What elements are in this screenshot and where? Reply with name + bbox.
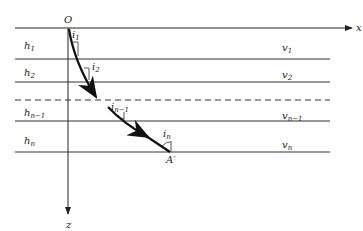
layer-thickness-n: hn (24, 135, 35, 148)
layer-thickness-2: h2 (24, 67, 35, 80)
x-axis-label: x (356, 22, 362, 33)
angle-in: in (163, 128, 171, 141)
layer-thickness-n-1: hn−1 (24, 107, 45, 120)
ray-path-diagram: x z O h1 h2 hn−1 hn v1 v2 vn−1 vn i1 i2 … (0, 0, 363, 231)
layer-velocity-n: vn (282, 139, 293, 152)
angle-i1: i1 (72, 29, 80, 42)
layer-velocity-2: v2 (282, 69, 293, 82)
z-axis-label: z (65, 219, 72, 230)
layer-thickness-1: h1 (24, 40, 35, 53)
arc-n (162, 142, 171, 146)
endpoint-label: A′ (165, 154, 176, 165)
angle-i2: i2 (92, 61, 100, 74)
origin-label: O (64, 14, 72, 25)
angle-in-1: in−1 (111, 101, 129, 114)
layer-velocity-1: v1 (282, 42, 292, 55)
